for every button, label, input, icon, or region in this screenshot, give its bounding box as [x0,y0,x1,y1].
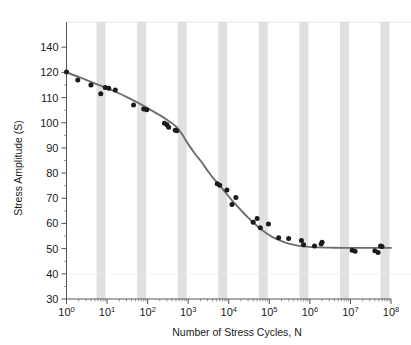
decade-band [381,22,390,299]
decade-band [178,22,187,299]
y-tick-label: 60 [46,217,58,229]
data-point [233,195,238,200]
decade-band [218,22,227,299]
y-tick-label: 90 [46,142,58,154]
y-tick-label: 110 [41,92,59,104]
data-point [113,87,118,92]
data-point [266,221,271,226]
data-point [144,107,149,112]
x-axis-tick-labels: 100101102103104105106107108 [58,305,399,319]
chart-canvas: 100101102103104105106107108 140120110100… [0,0,411,345]
data-point [106,86,111,91]
data-point [75,77,80,82]
data-point [353,249,358,254]
data-point [299,238,304,243]
data-point [64,69,69,74]
data-point [255,216,260,221]
decade-band [340,22,349,299]
data-point [166,125,171,130]
decade-band [137,22,146,299]
chart-background [0,0,411,345]
data-point [98,91,103,96]
data-point [276,235,281,240]
y-tick-label: 70 [46,192,58,204]
data-point [312,244,317,249]
data-point [174,128,179,133]
data-point [380,244,385,249]
x-axis-title: Number of Stress Cycles, N [172,326,302,338]
data-point [224,187,229,192]
decade-band [299,22,308,299]
data-point [217,183,222,188]
data-point [320,240,325,245]
y-tick-label: 40 [46,268,58,280]
y-tick-label: 100 [40,117,58,129]
y-tick-label: 140 [40,41,58,53]
data-point [229,202,234,207]
y-tick-label: 80 [46,167,58,179]
decade-band [97,22,106,299]
data-point [88,82,93,87]
y-tick-label: 30 [46,293,58,305]
data-point [376,250,381,255]
y-tick-label: 50 [46,243,58,255]
sn-curve-chart: 100101102103104105106107108 140120110100… [0,0,411,345]
y-tick-label: 120 [40,66,58,78]
data-point [131,103,136,108]
data-point [301,242,306,247]
decade-band [259,22,268,299]
y-axis-title: Stress Amplitude (S) [12,120,24,216]
data-point [251,220,256,225]
data-point [286,236,291,241]
data-point [258,225,263,230]
